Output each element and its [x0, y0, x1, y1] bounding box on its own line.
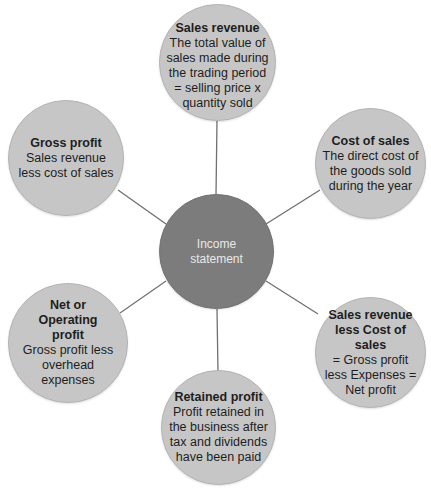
link-retained-profit — [217, 309, 218, 373]
link-gross-profit — [118, 190, 166, 224]
node-title: Gross profit — [30, 136, 102, 151]
link-sales-revenue-less — [266, 281, 318, 314]
link-sales-revenue — [216, 120, 217, 195]
node-sales-revenue-less-cost: Sales revenue less Cost of sales = Gross… — [315, 297, 426, 408]
node-description: Sales revenue less cost of sales — [16, 151, 116, 181]
node-title: Net or Operating profit — [28, 298, 108, 343]
node-cost-of-sales: Cost of sales The direct cost of the goo… — [315, 108, 426, 219]
node-sales-revenue: Sales revenue The total value of sales m… — [159, 4, 276, 121]
node-description: Profit retained in the business after ta… — [169, 405, 269, 465]
node-net-operating-profit: Net or Operating profit Gross profit les… — [8, 283, 128, 403]
node-description: The total value of sales made during the… — [166, 36, 269, 111]
link-net-operating — [120, 281, 166, 313]
node-description: Gross profit less overhead expenses — [15, 343, 121, 388]
link-cost-of-sales — [266, 190, 320, 224]
center-label: Income statement — [190, 237, 243, 267]
node-description: = Gross profit less Expenses = Net profi… — [323, 353, 419, 398]
node-title: Cost of sales — [332, 134, 410, 149]
node-title: Sales revenue less Cost of sales — [322, 308, 419, 353]
node-title: Sales revenue — [175, 21, 259, 36]
node-income-statement: Income statement — [159, 194, 274, 309]
node-retained-profit: Retained profit Profit retained in the b… — [161, 370, 276, 485]
node-title: Retained profit — [174, 390, 262, 405]
node-description: The direct cost of the goods sold during… — [322, 149, 419, 194]
node-gross-profit: Gross profit Sales revenue less cost of … — [8, 100, 124, 216]
